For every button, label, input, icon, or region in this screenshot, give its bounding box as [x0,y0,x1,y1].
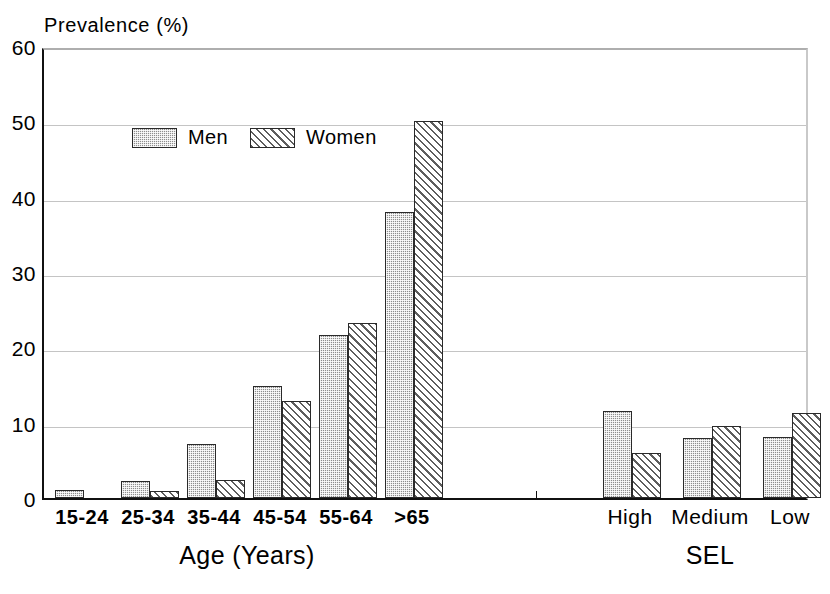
legend-item-women: Women [250,126,377,149]
x-tick-label-65: >65 [394,506,429,528]
x-tick-label-2534: 25-34 [121,506,175,528]
legend-swatch-women-icon [250,128,295,148]
x-axis-title-age: Age (Years) [179,541,315,569]
y-axis-tick-labels: 6050403020100 [0,48,36,500]
plot-inner [44,50,806,498]
bar-women-Low [792,413,821,498]
bar-women-65 [414,121,443,498]
bar-women-High [632,453,661,498]
y-axis-title: Prevalence (%) [44,14,189,37]
prevalence-bar-chart: Prevalence (%) 6050403020100 Men Women 1… [0,0,830,594]
bar-men-5564 [319,335,348,498]
legend-item-men: Men [132,126,228,149]
y-tick-label: 0 [0,489,36,510]
bar-men-65 [385,212,414,498]
bar-men-Low [763,437,792,498]
chart-legend: Men Women [132,126,377,149]
legend-swatch-men-icon [132,128,177,148]
x-tick-label-4554: 45-54 [253,506,307,528]
bar-women-Medium [712,426,741,498]
legend-label-women: Women [306,126,377,149]
bar-women-5564 [348,323,377,498]
x-axis-title-sel: SEL [686,541,734,569]
legend-label-men: Men [188,126,228,149]
bar-men-4554 [253,386,282,498]
x-tick-label-3544: 35-44 [187,506,241,528]
x-tick-label-1524: 15-24 [55,506,109,528]
bar-men-1524 [55,490,84,498]
y-tick-label: 40 [0,188,36,209]
y-tick-label: 50 [0,112,36,133]
y-tick-label: 10 [0,414,36,435]
bar-women-2534 [150,491,179,498]
y-tick-label: 60 [0,37,36,58]
y-tick-label: 30 [0,263,36,284]
x-tick-label-Medium: Medium [671,506,749,528]
x-tick-label-5564: 55-64 [319,506,373,528]
x-tick-label-High: High [607,506,652,528]
bar-men-Medium [683,438,712,498]
bar-men-2534 [121,481,150,498]
bar-men-High [603,411,632,498]
y-tick-label: 20 [0,338,36,359]
plot-area: Men Women [42,48,808,500]
bar-women-3544 [216,480,245,498]
x-tick-label-Low: Low [770,506,810,528]
panel-separator-tick [536,491,537,498]
bar-women-4554 [282,401,311,498]
bar-men-3544 [187,444,216,498]
